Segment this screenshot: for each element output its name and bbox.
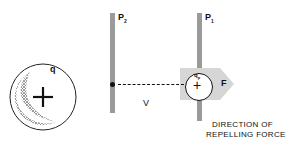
- p2-dot: [110, 82, 115, 87]
- plate-p2-label: P2: [118, 12, 127, 24]
- plate-p2-subscript: 2: [124, 18, 127, 24]
- potential-label: V: [143, 98, 149, 108]
- force-label: F: [221, 78, 227, 88]
- caption-line1: DIRECTION OF: [206, 120, 286, 130]
- sphere-icon: [8, 62, 78, 132]
- plate-p1-label: P1: [205, 12, 214, 24]
- caption: DIRECTION OF REPELLING FORCE: [206, 120, 286, 140]
- source-charge-label: q: [50, 64, 56, 74]
- plate-p1-subscript: 1: [211, 18, 214, 24]
- test-charge-sign: +: [193, 78, 201, 92]
- plate-p2: [110, 13, 115, 113]
- source-charge-sphere: [8, 62, 78, 132]
- caption-line2: REPELLING FORCE: [206, 130, 286, 140]
- potential-dashed-line: [118, 84, 184, 85]
